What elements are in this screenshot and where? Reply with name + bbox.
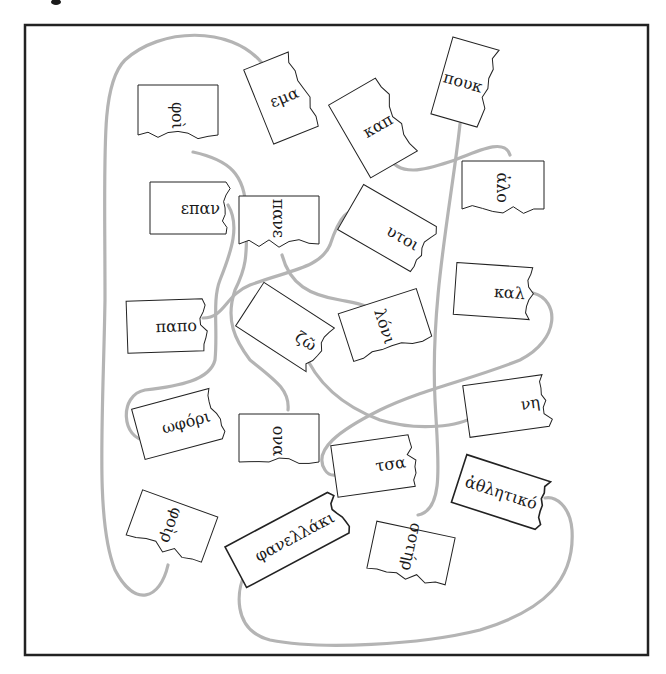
tag-word-fragment: πανε: [269, 199, 288, 238]
tag-word-fragment: ἀλο: [493, 172, 512, 203]
cropped-heading-fragment: [51, 0, 61, 5]
tag-fragment-6: επαν: [150, 182, 230, 234]
tag-fragment-9: καλ: [453, 262, 535, 319]
tag-fragment-5: ἀλο: [462, 161, 544, 213]
tag-word-fragment: παπο: [155, 316, 197, 336]
tag-word-fragment: φοὶ: [168, 102, 187, 129]
matching-puzzle-figure: φοὶεμακαππουκἀλοεπανπανευτοικαλπαποζῶλόν…: [0, 0, 666, 674]
tag-word-fragment: καλ: [493, 282, 525, 303]
tag-fragment-7: πανε: [239, 196, 319, 247]
tag-fragment-10: παπο: [126, 299, 208, 354]
tag-fragment-14: ονα: [239, 414, 319, 463]
tag-fragment-15: νη: [463, 374, 553, 437]
tag-fragment-1: φοὶ: [138, 85, 218, 139]
tag-word-fragment: νη: [519, 392, 541, 414]
tag-word-fragment: επαν: [181, 199, 220, 218]
tag-word-fragment: ονα: [269, 426, 288, 456]
tag-fragment-16: τσα: [331, 434, 420, 497]
